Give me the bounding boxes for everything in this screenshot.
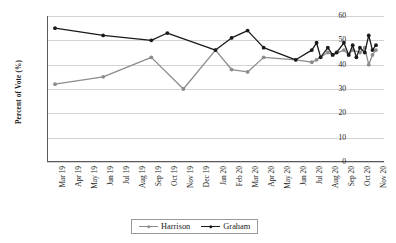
data-point-graham <box>246 29 250 33</box>
data-point-graham <box>101 34 105 38</box>
vote-percent-line-chart: Percent of Vote (%) 0102030405060 Mar 19… <box>0 0 396 243</box>
x-tick-label: Jul 19 <box>122 166 131 184</box>
data-point-graham <box>294 58 298 62</box>
x-tick-label: Oct 20 <box>363 166 372 186</box>
y-tick-label: 40 <box>318 60 346 69</box>
data-point-graham <box>230 36 234 40</box>
data-point-harrison <box>246 70 250 74</box>
data-point-graham <box>165 31 169 35</box>
x-tick-label: Mar 20 <box>251 166 260 188</box>
data-point-harrison <box>230 68 234 72</box>
y-tick-label: 60 <box>318 11 346 20</box>
data-point-graham <box>149 38 153 42</box>
y-tick-label: 20 <box>318 108 346 117</box>
legend-item-harrison: Harrison <box>139 222 190 231</box>
data-point-graham <box>367 34 371 38</box>
y-tick-label: 50 <box>318 35 346 44</box>
data-point-harrison <box>53 82 57 86</box>
data-point-harrison <box>182 87 186 91</box>
x-tick-label: Nov 19 <box>186 166 195 188</box>
y-axis-title: Percent of Vote (%) <box>15 32 23 152</box>
legend-label-graham: Graham <box>223 222 250 231</box>
x-tick-label: Jun 20 <box>299 166 308 186</box>
data-point-graham <box>351 43 355 47</box>
x-tick-label: Dec 19 <box>202 166 211 187</box>
data-point-graham <box>262 46 266 50</box>
legend-item-graham: Graham <box>201 222 250 231</box>
y-tick-label: 10 <box>318 133 346 142</box>
x-tick-label: Sep 19 <box>154 166 163 186</box>
x-tick-label: May 20 <box>283 166 292 189</box>
x-tick-label: Jan 20 <box>219 166 228 185</box>
legend-swatch-harrison <box>139 226 158 227</box>
y-tick-label: 30 <box>318 84 346 93</box>
x-tick-label: Apr 20 <box>267 166 276 187</box>
x-tick-label: Jul 20 <box>315 166 324 184</box>
data-point-graham <box>371 48 375 52</box>
data-point-harrison <box>326 51 330 55</box>
data-point-graham <box>358 46 362 50</box>
legend-swatch-graham <box>201 226 220 227</box>
x-tick-label: Sep 20 <box>347 166 356 186</box>
x-tick-label: Nov 20 <box>379 166 388 188</box>
x-tick-label: Aug 20 <box>331 166 340 188</box>
x-axis-ticks: Mar 19Apr 19May 19Jun 19Jul 19Aug 19Sep … <box>47 166 384 210</box>
x-tick-label: May 19 <box>90 166 99 189</box>
legend-label-harrison: Harrison <box>161 222 190 231</box>
x-tick-label: Mar 19 <box>58 166 67 188</box>
x-tick-label: Aug 19 <box>138 166 147 188</box>
data-point-graham <box>335 51 339 55</box>
data-point-graham <box>310 48 314 52</box>
y-tick-label: 0 <box>318 157 346 166</box>
data-point-graham <box>331 53 335 57</box>
data-point-graham <box>53 26 57 30</box>
data-point-harrison <box>374 48 378 52</box>
data-point-harrison <box>342 48 346 52</box>
data-point-graham <box>347 53 351 57</box>
x-tick-label: Jun 19 <box>106 166 115 186</box>
data-point-graham <box>363 51 367 55</box>
data-point-harrison <box>149 55 153 59</box>
data-point-harrison <box>101 75 105 79</box>
x-tick-label: Feb 20 <box>235 166 244 186</box>
data-point-harrison <box>310 60 314 64</box>
x-tick-label: Oct 19 <box>170 166 179 186</box>
data-point-graham <box>374 43 378 47</box>
data-point-harrison <box>262 55 266 59</box>
data-point-harrison <box>367 63 371 67</box>
data-point-graham <box>214 48 218 52</box>
data-point-graham <box>326 46 330 50</box>
data-point-graham <box>355 55 359 59</box>
legend: Harrison Graham <box>131 219 258 234</box>
x-tick-label: Apr 19 <box>74 166 83 187</box>
data-point-harrison <box>371 53 375 57</box>
